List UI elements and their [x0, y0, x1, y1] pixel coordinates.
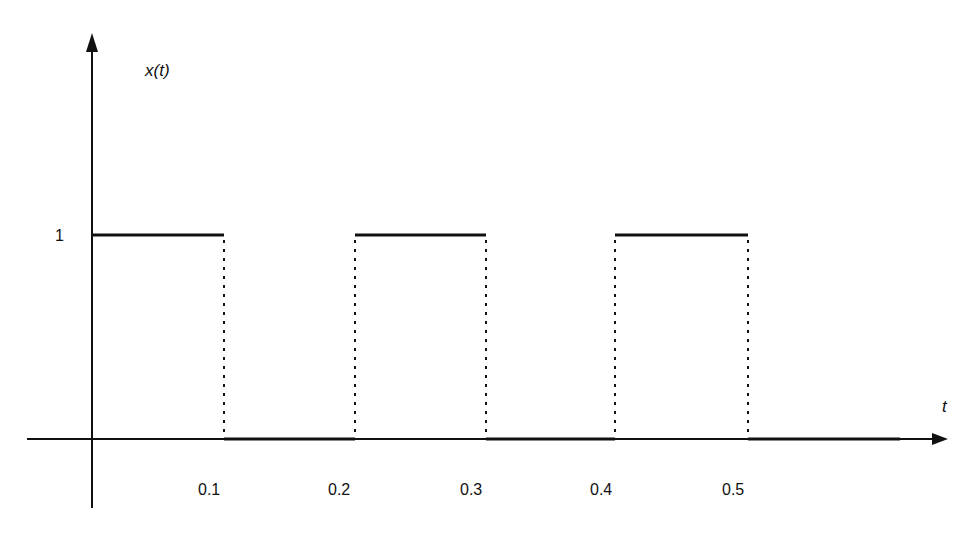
axes — [27, 33, 948, 508]
x-tick-0.4: 0.4 — [590, 481, 612, 498]
y-axis-label: x(t) — [144, 61, 170, 80]
x-tick-0.1: 0.1 — [198, 481, 220, 498]
y-axis-arrow-icon — [86, 33, 98, 52]
x-axis-label: t — [942, 397, 948, 416]
y-tick-1: 1 — [55, 227, 64, 244]
x-tick-0.3: 0.3 — [460, 481, 482, 498]
signal-plot: x(t) t 1 0.1 0.2 0.3 0.4 0.5 — [0, 0, 972, 535]
x-tick-0.2: 0.2 — [328, 481, 350, 498]
signal-transitions — [224, 240, 748, 439]
x-axis-arrow-icon — [932, 433, 948, 445]
x-tick-0.5: 0.5 — [722, 481, 744, 498]
